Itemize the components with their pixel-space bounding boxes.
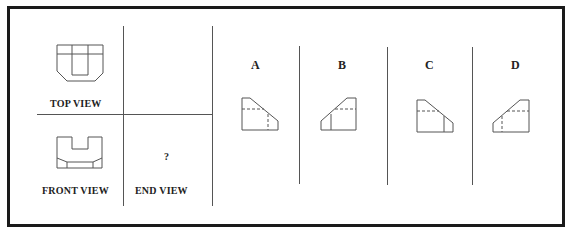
option-c-label: C — [425, 58, 434, 73]
option-a-label: A — [251, 58, 260, 73]
option-c-drawing — [416, 99, 456, 135]
option-a-drawing — [241, 97, 281, 133]
option-b-label: B — [338, 58, 346, 73]
divider-vertical-1 — [123, 26, 124, 206]
divider-option-ab — [299, 46, 300, 184]
front-view-label: FRONT VIEW — [42, 185, 109, 196]
option-d-label: D — [511, 58, 520, 73]
top-view-label: TOP VIEW — [50, 98, 102, 109]
divider-vertical-2 — [212, 26, 213, 206]
option-d-drawing — [492, 99, 532, 135]
option-b-drawing — [320, 97, 360, 133]
front-view-drawing — [56, 136, 106, 172]
divider-option-bc — [387, 47, 388, 185]
divider-horizontal — [37, 114, 213, 115]
end-view-placeholder: ? — [164, 151, 169, 162]
divider-option-cd — [472, 47, 473, 185]
top-view-drawing — [56, 44, 106, 84]
end-view-label: END VIEW — [135, 185, 188, 196]
